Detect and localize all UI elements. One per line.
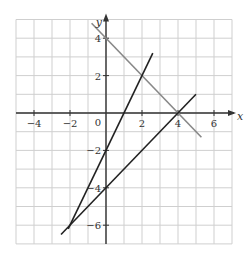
y-axis-arrow-icon bbox=[103, 14, 109, 22]
x-tick-label: −2 bbox=[63, 118, 78, 129]
x-tick-label: 2 bbox=[139, 118, 145, 129]
tick-labels: −4−2246−6−4−2240xy bbox=[27, 16, 244, 232]
origin-label: 0 bbox=[95, 117, 101, 128]
y-tick-label: −6 bbox=[86, 220, 101, 231]
y-tick-label: −4 bbox=[86, 183, 101, 194]
x-tick-label: −4 bbox=[27, 118, 42, 129]
y-tick-label: 2 bbox=[95, 71, 101, 82]
x-tick-label: 6 bbox=[211, 118, 217, 129]
x-tick-label: 4 bbox=[175, 118, 181, 129]
grid-lines bbox=[16, 20, 232, 244]
axes bbox=[16, 14, 236, 244]
y-axis-label: y bbox=[95, 16, 103, 29]
series-line bbox=[61, 94, 196, 234]
series-line bbox=[92, 23, 202, 137]
graph-plot: −4−2246−6−4−2240xy bbox=[0, 0, 244, 259]
series-line bbox=[68, 53, 153, 229]
y-tick-label: −2 bbox=[86, 145, 101, 156]
x-axis-label: x bbox=[237, 110, 244, 123]
y-tick-label: 4 bbox=[95, 33, 101, 44]
